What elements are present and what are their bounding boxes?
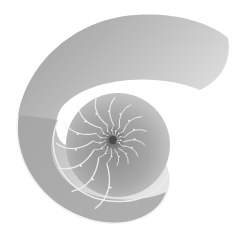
siphuncle-dot [75,149,77,151]
siphuncle-dot [109,186,111,188]
nautilus-photo [0,0,243,233]
siphuncle-dot [105,153,107,155]
siphuncle-dot [95,113,97,115]
siphuncle-dot [108,110,110,112]
siphuncle-dot [92,178,94,180]
spiral-center [109,136,117,144]
siphuncle-dot [111,129,112,130]
siphuncle-dot [119,113,121,115]
siphuncle-dot [111,156,113,158]
siphuncle-dot [99,142,101,144]
siphuncle-dot [120,136,121,137]
siphuncle-dot [115,131,116,132]
siphuncle-dot [125,153,127,155]
siphuncle-dot [77,133,79,135]
siphuncle-dot [100,137,101,138]
siphuncle-dot [103,133,104,134]
siphuncle-dot [118,133,119,134]
siphuncle-dot [133,129,135,131]
siphuncle-dot [120,139,121,140]
siphuncle-dot [80,165,82,167]
siphuncle-dot [119,142,120,143]
siphuncle-dot [107,130,108,131]
siphuncle-dot [131,147,133,149]
siphuncle-dot [101,148,103,150]
siphuncle-dot [134,138,136,140]
siphuncle-dot [84,121,86,123]
siphuncle-dot [128,120,130,122]
siphuncle-dot [118,156,120,158]
